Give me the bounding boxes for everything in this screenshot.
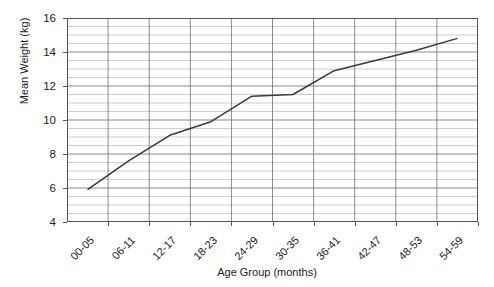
x-tick-mark <box>108 222 109 226</box>
x-tick-mark <box>437 222 438 226</box>
y-tick-mark <box>63 154 67 155</box>
y-tick-mark <box>63 222 67 223</box>
x-axis-title-text: Age Group (months) <box>177 266 317 278</box>
plot-area <box>67 18 478 222</box>
y-tick-label: 8 <box>30 149 56 159</box>
y-tick-label: 6 <box>30 183 56 193</box>
y-axis-title: Mean Weight (kg) <box>18 0 30 141</box>
y-tick-label: 14 <box>30 47 56 57</box>
x-tick-mark <box>396 222 397 226</box>
x-tick-mark <box>231 222 232 226</box>
y-tick-label: 4 <box>30 217 56 227</box>
y-tick-mark <box>63 188 67 189</box>
x-tick-mark <box>149 222 150 226</box>
x-axis-title: Age Group (months) <box>0 266 494 278</box>
y-tick-label: 10 <box>30 115 56 125</box>
x-tick-mark <box>273 222 274 226</box>
y-tick-label: 16 <box>30 13 56 23</box>
y-tick-mark <box>63 86 67 87</box>
y-tick-mark <box>63 52 67 53</box>
y-tick-label: 12 <box>30 81 56 91</box>
y-tick-mark <box>63 120 67 121</box>
grid-and-series-layer <box>68 19 477 221</box>
chart-container: Mean Weight (kg) Age Group (months) 1614… <box>0 0 494 287</box>
x-tick-mark <box>478 222 479 226</box>
x-tick-mark <box>355 222 356 226</box>
y-tick-mark <box>63 18 67 19</box>
x-tick-mark <box>314 222 315 226</box>
x-tick-mark <box>190 222 191 226</box>
